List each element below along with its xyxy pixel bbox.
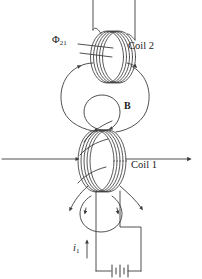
flux-label-leader-lines: [78, 44, 113, 57]
current-label: i1: [73, 243, 79, 255]
flux-symbol: Φ: [52, 34, 60, 45]
magnetic-field-lines: [61, 63, 149, 232]
battery-symbol: [112, 265, 128, 277]
coil-2-label: Coil 2: [128, 41, 154, 52]
flux-subscript: 21: [60, 39, 67, 47]
coil-1-label: Coil 1: [131, 160, 157, 171]
magnetic-field-label: B: [124, 101, 131, 111]
current-subscript: 1: [76, 247, 80, 255]
flux-label: Φ21: [52, 35, 67, 47]
coil-1-winding: [78, 130, 126, 192]
mutual-inductance-diagram: Φ21 Coil 2 B Coil 1 i1: [0, 0, 202, 279]
diagram-canvas: [0, 0, 202, 279]
